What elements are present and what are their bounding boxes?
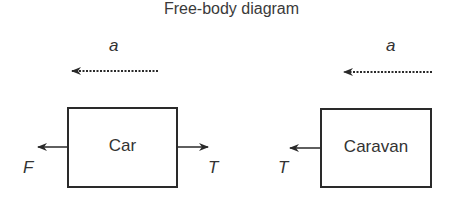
caravan-acceleration-label: a	[386, 36, 395, 56]
caravan-tension-label: T	[278, 158, 288, 178]
car-tension-label: T	[208, 158, 218, 178]
car-label: Car	[68, 136, 177, 156]
caravan-label: Caravan	[321, 137, 431, 157]
diagram-canvas	[0, 0, 463, 208]
car-acceleration-label: a	[109, 36, 118, 56]
force-f-label: F	[23, 158, 33, 178]
